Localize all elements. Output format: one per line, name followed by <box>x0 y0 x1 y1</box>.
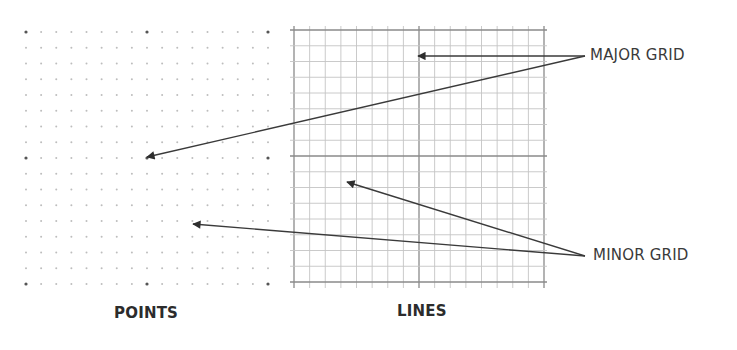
minor-grid-point <box>25 204 27 206</box>
minor-grid-point <box>267 141 269 143</box>
minor-grid-point <box>176 220 178 222</box>
minor-grid-point <box>70 157 72 159</box>
minor-grid-point <box>237 236 239 238</box>
minor-grid-point <box>55 126 57 128</box>
minor-grid-point <box>191 94 193 96</box>
minor-grid-point <box>222 31 224 33</box>
minor-grid-point <box>176 173 178 175</box>
minor-grid-point <box>267 126 269 128</box>
minor-grid-point <box>55 110 57 112</box>
minor-grid-point <box>222 173 224 175</box>
minor-grid-point <box>70 204 72 206</box>
minor-grid-point <box>146 267 148 269</box>
minor-grid-point <box>191 220 193 222</box>
minor-grid-point <box>101 204 103 206</box>
minor-grid-point <box>207 63 209 65</box>
minor-grid-point <box>191 31 193 33</box>
minor-grid-point <box>191 157 193 159</box>
minor-grid-point <box>55 267 57 269</box>
minor-grid-point <box>252 157 254 159</box>
minor-grid-point <box>131 220 133 222</box>
minor-grid-point <box>237 252 239 254</box>
minor-grid-point <box>252 189 254 191</box>
minor-grid-point <box>146 47 148 49</box>
minor-grid-point <box>191 63 193 65</box>
minor-grid-point <box>222 94 224 96</box>
minor-grid-point <box>191 126 193 128</box>
minor-grid-point <box>40 126 42 128</box>
minor-grid-point <box>222 267 224 269</box>
minor-grid-point <box>131 283 133 285</box>
minor-grid-point <box>252 110 254 112</box>
minor-grid-point <box>237 220 239 222</box>
minor-grid-point <box>161 47 163 49</box>
minor-grid-point <box>267 189 269 191</box>
minor-grid-point <box>176 126 178 128</box>
minor-grid-point <box>176 252 178 254</box>
minor-grid-point <box>207 126 209 128</box>
minor-grid-point <box>131 63 133 65</box>
minor-grid-point <box>161 31 163 33</box>
minor-grid-point <box>222 126 224 128</box>
minor-grid-point <box>191 267 193 269</box>
minor-grid-point <box>70 110 72 112</box>
minor-grid-point <box>191 141 193 143</box>
minor-grid-point <box>191 78 193 80</box>
minor-grid-point <box>131 252 133 254</box>
minor-grid-point <box>25 267 27 269</box>
minor-grid-point <box>267 94 269 96</box>
minor-grid-point <box>161 252 163 254</box>
minor-grid-point <box>207 267 209 269</box>
minor-grid-point <box>161 204 163 206</box>
minor-grid-point <box>222 283 224 285</box>
minor-grid-point <box>207 78 209 80</box>
minor-grid-point <box>116 110 118 112</box>
minor-grid-point <box>207 220 209 222</box>
minor-grid-point <box>146 189 148 191</box>
minor-grid-point <box>131 189 133 191</box>
minor-grid-point <box>40 78 42 80</box>
minor-grid-point <box>86 141 88 143</box>
minor-grid-point <box>101 126 103 128</box>
minor-grid-point <box>131 141 133 143</box>
minor-grid-label: MINOR GRID <box>593 246 689 264</box>
minor-grid-point <box>252 252 254 254</box>
minor-grid-point <box>176 110 178 112</box>
minor-grid-point <box>116 47 118 49</box>
minor-grid-point <box>131 47 133 49</box>
major-grid-point <box>24 156 27 159</box>
major-grid-point <box>24 282 27 285</box>
minor-grid-point <box>25 141 27 143</box>
minor-grid-point <box>131 94 133 96</box>
minor-grid-point <box>101 220 103 222</box>
minor-grid-point <box>25 47 27 49</box>
minor-grid-point <box>131 157 133 159</box>
minor-grid-point <box>86 220 88 222</box>
minor-grid-point <box>86 94 88 96</box>
minor-grid-point <box>86 47 88 49</box>
minor-grid-point <box>267 252 269 254</box>
minor-grid-point <box>116 252 118 254</box>
minor-grid-point <box>237 78 239 80</box>
minor-grid-point <box>131 267 133 269</box>
minor-grid-point <box>25 252 27 254</box>
lines-grid <box>290 26 547 288</box>
minor-grid-point <box>101 173 103 175</box>
minor-grid-point <box>207 110 209 112</box>
points-caption: POINTS <box>114 304 178 322</box>
minor-grid-point <box>70 126 72 128</box>
minor-grid-point <box>55 141 57 143</box>
minor-grid-point <box>70 252 72 254</box>
minor-grid-point <box>252 47 254 49</box>
minor-grid-point <box>116 78 118 80</box>
minor-grid-point <box>131 236 133 238</box>
minor-grid-point <box>161 173 163 175</box>
minor-grid-point <box>176 157 178 159</box>
minor-grid-point <box>101 78 103 80</box>
minor-grid-point <box>161 283 163 285</box>
minor-grid-point <box>70 220 72 222</box>
minor-grid-point <box>116 267 118 269</box>
minor-grid-point <box>176 94 178 96</box>
minor-grid-point <box>146 204 148 206</box>
minor-grid-point <box>70 267 72 269</box>
